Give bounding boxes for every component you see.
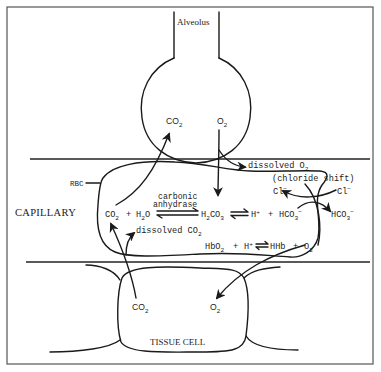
svg-text:O2: O2 xyxy=(304,242,313,254)
svg-text:HHb: HHb xyxy=(270,242,285,252)
arrow-tissue-co2-dissolved xyxy=(126,233,134,255)
arrow-chloride-in xyxy=(283,190,336,197)
svg-text:H+: H+ xyxy=(244,241,253,252)
svg-text:H+: H+ xyxy=(251,209,260,220)
svg-text:+: + xyxy=(126,210,131,220)
chloride-shift-label: (chloride shift) xyxy=(272,174,355,184)
rbc-label: RBC xyxy=(70,180,84,188)
svg-text:H2O: H2O xyxy=(136,210,150,222)
diagram-frame xyxy=(7,7,373,364)
enzyme-label-line2: anhydrase xyxy=(153,200,197,209)
arrow-hco3-out xyxy=(298,202,330,211)
svg-text:+: + xyxy=(233,242,238,252)
alveolus-co2: CO2 xyxy=(166,116,183,128)
svg-text:H2CO3: H2CO3 xyxy=(201,210,224,222)
svg-text:HbO2: HbO2 xyxy=(205,242,224,254)
dissolved-co2-label: dissolved CO2 xyxy=(136,226,202,238)
alveolus-shape xyxy=(141,12,251,163)
dissolved-o2-label: dissolved O2 xyxy=(248,161,309,173)
tissue-co2: CO2 xyxy=(132,302,149,314)
svg-text:+: + xyxy=(268,210,273,220)
svg-text:CO2: CO2 xyxy=(105,210,119,222)
tissue-o2: O2 xyxy=(210,302,221,314)
capillary-label: CAPILLARY xyxy=(15,207,76,218)
bicarbonate-plasma: HCO3− xyxy=(331,209,354,222)
chloride-ion-plasma: Cl− xyxy=(337,186,351,197)
svg-text:HCO3−: HCO3− xyxy=(279,209,302,222)
alveolus-o2: O2 xyxy=(217,116,228,128)
gas-exchange-diagram: Alveolus CO2 O2 RBC CAPILLARY CO2 + H2O … xyxy=(0,0,381,372)
tissue-cell-label: TISSUE CELL xyxy=(150,337,205,347)
arrow-o2-into-rbc xyxy=(218,130,219,195)
alveolus-label: Alveolus xyxy=(177,17,210,27)
